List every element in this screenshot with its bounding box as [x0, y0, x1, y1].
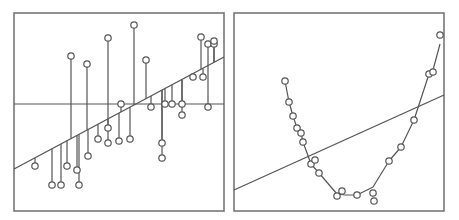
- data-point-marker: [286, 99, 292, 105]
- data-point-marker: [316, 170, 322, 176]
- data-point-marker: [148, 104, 154, 110]
- data-point-marker: [105, 140, 111, 146]
- data-point-marker: [300, 139, 306, 145]
- data-point-marker: [198, 34, 204, 40]
- data-point-marker: [179, 101, 185, 107]
- data-point-marker: [282, 78, 288, 84]
- data-point-marker: [386, 158, 392, 164]
- data-point-marker: [58, 182, 64, 188]
- data-point-marker: [143, 57, 149, 63]
- data-point-marker: [169, 101, 175, 107]
- data-point-marker: [76, 182, 82, 188]
- data-point-marker: [159, 155, 165, 161]
- data-point-marker: [68, 53, 74, 59]
- data-point-marker: [131, 22, 137, 28]
- data-point-marker: [84, 61, 90, 67]
- data-point-marker: [398, 144, 404, 150]
- left-panel-linear-fit: [14, 13, 224, 211]
- plot-frame: [14, 13, 224, 211]
- data-point-marker: [290, 113, 296, 119]
- data-point-marker: [32, 163, 38, 169]
- data-point-marker: [127, 136, 133, 142]
- data-point-marker: [430, 69, 436, 75]
- data-point-marker: [49, 182, 55, 188]
- data-point-marker: [339, 188, 345, 194]
- data-point-marker: [159, 140, 165, 146]
- plot-frame: [234, 13, 444, 211]
- data-point-marker: [85, 153, 91, 159]
- data-point-marker: [211, 38, 217, 44]
- data-point-marker: [200, 74, 206, 80]
- data-point-marker: [105, 35, 111, 41]
- data-point-marker: [105, 125, 111, 131]
- chart-canvas: [0, 0, 459, 220]
- data-point-marker: [116, 138, 122, 144]
- data-point-marker: [74, 167, 80, 173]
- data-point-marker: [354, 192, 360, 198]
- data-point-marker: [205, 104, 211, 110]
- data-point-marker: [411, 117, 417, 123]
- data-point-marker: [298, 130, 304, 136]
- data-point-marker: [312, 157, 318, 163]
- data-point-marker: [64, 163, 70, 169]
- data-point-marker: [179, 112, 185, 118]
- regression-line: [234, 95, 444, 190]
- data-point-marker: [190, 74, 196, 80]
- data-point-marker: [370, 190, 376, 196]
- data-point-marker: [95, 136, 101, 142]
- right-panel-curve-fit: [234, 13, 444, 211]
- data-point-marker: [371, 198, 377, 204]
- data-point-marker: [162, 101, 168, 107]
- data-point-marker: [118, 101, 124, 107]
- data-point-marker: [334, 193, 340, 199]
- data-point-marker: [437, 32, 443, 38]
